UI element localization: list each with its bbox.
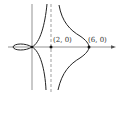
curve-left-branch-upper: [32, 4, 47, 47]
point-origin: [31, 46, 34, 49]
point-2-0: [50, 46, 53, 49]
x-axis-arrow-icon: [111, 45, 116, 48]
label-point-6-0: (6, 0): [88, 36, 107, 44]
label-point-2-0: (2, 0): [53, 36, 72, 44]
point-6-0: [88, 46, 91, 49]
curve-right-branch: [58, 5, 89, 90]
curve-left-branch-lower: [32, 47, 46, 90]
graph-canvas: [0, 0, 116, 113]
